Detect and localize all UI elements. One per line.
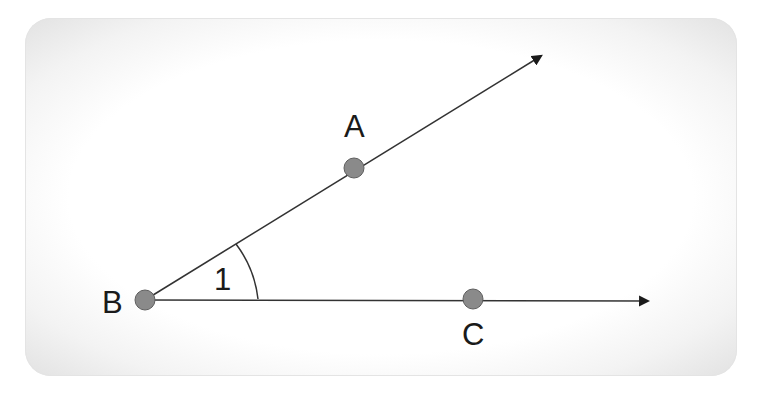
label-a: A — [344, 109, 365, 144]
angle-label-1: 1 — [214, 262, 231, 297]
angle-diagram: A B C 1 — [0, 0, 771, 406]
angle-arc — [236, 244, 258, 299]
point-a — [344, 158, 364, 178]
ray-bc — [145, 300, 648, 301]
label-b: B — [102, 285, 123, 320]
point-c — [463, 289, 483, 309]
label-c: C — [462, 317, 484, 352]
ray-ba — [145, 56, 541, 300]
point-b — [135, 290, 155, 310]
